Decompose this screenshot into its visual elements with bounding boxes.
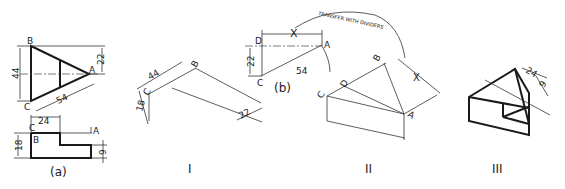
dim-54: 54	[55, 92, 70, 106]
vertex-a-label: A	[89, 65, 96, 75]
transfer-annotation: TRANSFER WITH DIVIDERS	[317, 10, 384, 30]
vertex-c-b-label: C	[257, 78, 263, 88]
vertex-c-label: C	[24, 102, 30, 112]
front-a-label: A	[93, 126, 100, 136]
x-mark: X	[413, 72, 420, 83]
vertex-b-label: B	[27, 36, 33, 46]
step2-b-label: B	[371, 53, 383, 63]
step1-dim-44: 44	[146, 67, 161, 82]
step1-dim-18: 18	[134, 99, 147, 113]
label-a: (a)	[50, 165, 67, 179]
label-step-2: II	[365, 162, 372, 176]
dim-18: 18	[14, 139, 24, 151]
front-c-label: C	[29, 123, 35, 133]
step-2-drawing: X	[327, 59, 440, 140]
isometric-construction-diagram: B A C 44 22 54 C B A 24 18 9 (a) 44 18 2…	[0, 0, 565, 189]
vertex-a-b-label: A	[324, 40, 331, 50]
label-b: (b)	[274, 81, 291, 95]
step-3-drawing	[469, 68, 550, 135]
view-a-front	[14, 115, 107, 163]
step1-b-label: B	[189, 59, 201, 69]
vertex-d-label: D	[255, 36, 262, 46]
dim-44: 44	[11, 67, 21, 79]
front-b-label: B	[33, 135, 39, 145]
dim-b-54: 54	[296, 66, 308, 76]
dim-x: X	[290, 27, 298, 40]
step2-a-label: A	[406, 109, 417, 121]
step1-c-label: C	[141, 87, 153, 97]
dim-22: 22	[96, 54, 106, 65]
label-step-1: I	[188, 162, 192, 176]
label-step-3: III	[492, 162, 503, 176]
dim-9: 9	[98, 149, 108, 155]
step2-d-label: D	[338, 78, 350, 89]
dim-24: 24	[38, 116, 50, 126]
step3-dim-9: 9	[537, 79, 549, 89]
dim-b-22: 22	[246, 56, 256, 67]
step2-c-label: C	[315, 90, 327, 100]
front-view-outline	[31, 133, 91, 158]
